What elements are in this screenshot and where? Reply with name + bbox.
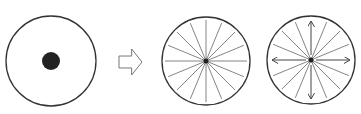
hub (204, 59, 209, 64)
diagram-stage (0, 0, 361, 114)
right-arrow-icon (119, 49, 142, 75)
panel-1-circle-with-dot (6, 16, 96, 106)
diagram-canvas (0, 0, 361, 114)
panel-3-spoked-wheel-with-arrows (267, 16, 355, 104)
hub (309, 58, 314, 63)
arrow-shape (119, 49, 142, 75)
panel-2-spoked-wheel (162, 17, 250, 105)
center-dot (42, 52, 60, 70)
